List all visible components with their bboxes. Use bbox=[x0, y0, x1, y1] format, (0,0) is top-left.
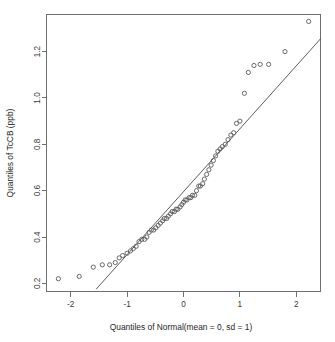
data-point bbox=[267, 62, 271, 66]
data-point bbox=[77, 274, 81, 278]
data-point bbox=[194, 189, 198, 193]
data-point bbox=[258, 62, 262, 66]
x-tick-label: 1 bbox=[238, 300, 243, 309]
data-point bbox=[205, 172, 209, 176]
y-axis-ticks bbox=[42, 52, 47, 284]
x-axis-title: Quantiles of Normal(mean = 0, sd = 1) bbox=[110, 322, 253, 332]
plot-box bbox=[47, 15, 321, 292]
data-point bbox=[232, 131, 236, 135]
reference-line bbox=[96, 39, 320, 289]
y-tick-label: 0.8 bbox=[34, 138, 43, 150]
data-point bbox=[283, 49, 287, 53]
data-point bbox=[56, 277, 60, 281]
y-tick-label: 1.0 bbox=[34, 92, 43, 104]
data-point bbox=[229, 133, 233, 137]
data-point bbox=[202, 177, 206, 181]
data-point bbox=[246, 70, 250, 74]
y-tick-label: 0.2 bbox=[34, 277, 43, 289]
data-point bbox=[238, 119, 242, 123]
data-point bbox=[207, 168, 211, 172]
y-axis-title: Quantiles of TcCB (ppb) bbox=[5, 108, 15, 197]
y-tick-label: 1.2 bbox=[34, 45, 43, 57]
data-point bbox=[242, 91, 246, 95]
y-tick-label: 0.4 bbox=[34, 231, 43, 243]
data-point bbox=[121, 253, 125, 257]
x-tick-label: -2 bbox=[67, 300, 75, 309]
data-point bbox=[252, 63, 256, 67]
x-tick-label: 0 bbox=[181, 300, 186, 309]
data-point bbox=[100, 263, 104, 267]
data-point bbox=[209, 163, 213, 167]
plot-border bbox=[47, 15, 321, 292]
x-tick-label: 2 bbox=[294, 300, 299, 309]
x-axis-ticks bbox=[71, 292, 297, 297]
y-tick-label: 0.6 bbox=[34, 185, 43, 197]
plot-canvas: -2-1012 0.20.40.60.81.01.2 Quantiles of … bbox=[0, 0, 335, 342]
data-point-series bbox=[56, 19, 311, 281]
data-point bbox=[113, 260, 117, 264]
x-tick-label: -1 bbox=[123, 300, 131, 309]
y-axis-tick-labels: 0.20.40.60.81.01.2 bbox=[34, 45, 43, 289]
data-point bbox=[226, 138, 230, 142]
qq-plot-figure: -2-1012 0.20.40.60.81.01.2 Quantiles of … bbox=[0, 0, 335, 342]
data-point bbox=[307, 19, 311, 23]
data-point bbox=[108, 263, 112, 267]
qq-reference-line bbox=[96, 39, 320, 289]
data-point bbox=[91, 265, 95, 269]
x-axis-tick-labels: -2-1012 bbox=[67, 300, 299, 309]
